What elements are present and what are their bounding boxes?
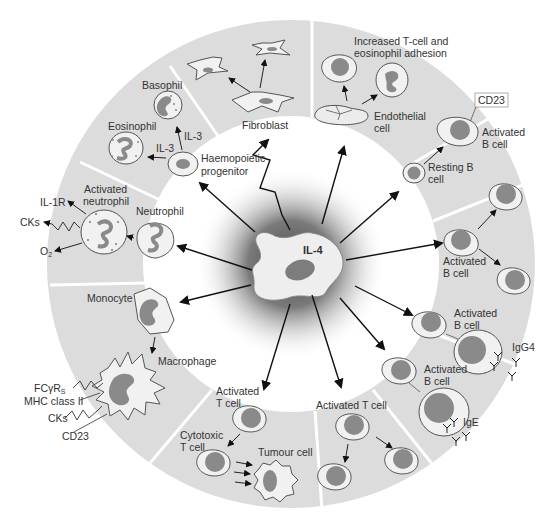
activated-neutrophil-label-line2: neutrophil bbox=[83, 195, 129, 207]
cks-macrophage-label: CKs bbox=[48, 412, 68, 424]
cd23-label: CD23 bbox=[478, 94, 505, 106]
activated-b-cell-1 bbox=[412, 312, 446, 338]
resting-b-label-line2: cell bbox=[428, 173, 444, 185]
il-3-label-b: IL-3 bbox=[156, 142, 174, 154]
adhesion-label-line1: Increased T-cell and bbox=[354, 35, 449, 47]
basophil-label: Basophil bbox=[142, 79, 182, 91]
activated-b-label-line1: Activated bbox=[443, 255, 486, 267]
haemopoietic-progenitor-cell bbox=[168, 152, 198, 176]
activated-b-2-label-line1: Activated bbox=[424, 363, 467, 375]
activated-t-label-line1: Activated bbox=[216, 385, 259, 397]
il-3-label-a: IL-3 bbox=[184, 130, 202, 142]
endothelial-label-line2: cell bbox=[374, 122, 390, 134]
macrophage-label: Macrophage bbox=[158, 355, 217, 367]
eosinophil-adhered bbox=[376, 63, 408, 97]
activated-b-label-line2: B cell bbox=[482, 138, 508, 150]
activated-b-label-line1: Activated bbox=[482, 126, 525, 138]
b-cell-daughter-1 bbox=[489, 184, 522, 210]
tumour-cell-label: Tumour cell bbox=[258, 446, 312, 458]
cytotoxic-t-label-line1: Cytotoxic bbox=[180, 429, 223, 441]
t-cell-daughter-2 bbox=[385, 448, 418, 474]
plasma-cell-ige bbox=[419, 388, 469, 436]
igg4-label: IgG4 bbox=[512, 341, 535, 353]
eosinophil-cell bbox=[109, 132, 143, 164]
il4-effects-diagram: IL-4 Fibroblast Increased bbox=[0, 0, 556, 524]
activated-b-1-label-line1: Activated bbox=[454, 307, 497, 319]
activated-t-cell bbox=[336, 414, 369, 440]
resting-b-cell bbox=[403, 163, 425, 183]
neutrophil-label: Neutrophil bbox=[136, 205, 184, 217]
haemopoietic-label-line1: Haemopoietic bbox=[201, 152, 265, 164]
monocyte-label: Monocyte bbox=[87, 292, 133, 304]
activated-b-1-label-line2: B cell bbox=[454, 319, 480, 331]
cks-neutrophil-label: CKs bbox=[20, 216, 40, 228]
fcgr-label: FCγRS bbox=[34, 382, 66, 395]
fibroblast-label: Fibroblast bbox=[242, 119, 288, 131]
cd23-macrophage-label: CD23 bbox=[62, 430, 89, 442]
t-cell-daughter-1 bbox=[318, 464, 351, 490]
eosinophil-label: Eosinophil bbox=[108, 120, 156, 132]
activated-t-label: Activated T cell bbox=[316, 399, 387, 411]
neutrophil-cell bbox=[137, 223, 174, 258]
haemopoietic-label-line2: progenitor bbox=[201, 165, 249, 177]
b-cell-daughter-2 bbox=[497, 268, 530, 294]
cytotoxic-t-label-line2: T cell bbox=[180, 441, 205, 453]
center-label: IL-4 bbox=[303, 244, 323, 256]
activated-b-label-line2: B cell bbox=[443, 267, 469, 279]
endothelial-label-line1: Endothelial bbox=[374, 110, 426, 122]
ige-label: IgE bbox=[463, 416, 479, 428]
activated-b-cell-parent bbox=[444, 230, 478, 256]
basophil-cell bbox=[154, 91, 182, 119]
activated-b-cell-2 bbox=[382, 358, 416, 384]
activated-t-cell bbox=[233, 406, 266, 432]
activated-t-label-line2: T cell bbox=[216, 397, 241, 409]
cytotoxic-t-cell bbox=[197, 450, 230, 476]
t-cell-adhered bbox=[322, 55, 357, 82]
il-1r-label: IL-1R bbox=[40, 196, 66, 208]
resting-b-label-line1: Resting B bbox=[428, 161, 474, 173]
activated-b-2-label-line2: B cell bbox=[424, 375, 450, 387]
mhc-class-ii-label: MHC class II bbox=[24, 395, 84, 407]
activated-neutrophil-label-line1: Activated bbox=[84, 183, 127, 195]
activated-neutrophil-cell bbox=[81, 210, 127, 254]
adhesion-label-line2: eosinophil adhesion bbox=[354, 47, 447, 59]
